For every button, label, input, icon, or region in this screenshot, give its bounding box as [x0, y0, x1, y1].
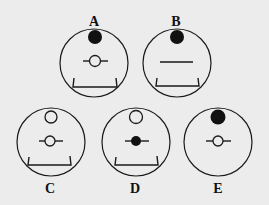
hollow-ball [90, 56, 101, 67]
panel-label-b: B [171, 14, 180, 29]
bracket-base [156, 78, 199, 86]
panel-d: D [102, 108, 170, 196]
hollow-ball [213, 136, 223, 146]
panel-label-a: A [89, 14, 100, 29]
panel-c: C [17, 108, 85, 196]
bracket-base [73, 78, 117, 87]
panel-a: A [60, 14, 128, 97]
hollow-top-dot [45, 111, 57, 123]
filled-ball [131, 136, 141, 146]
filled-top-dot [88, 30, 102, 44]
bracket-base [28, 156, 71, 165]
panel-label-c: C [45, 181, 55, 196]
panel-b: B [143, 14, 211, 97]
hollow-top-dot [130, 111, 143, 124]
bracket-base [115, 156, 158, 165]
panel-label-e: E [213, 181, 222, 196]
panel-label-d: D [130, 181, 140, 196]
diagram-svg: A B C [0, 0, 269, 205]
filled-top-dot [211, 110, 226, 125]
filled-top-dot [170, 30, 184, 44]
panel-e: E [184, 108, 252, 196]
hollow-ball [45, 136, 55, 146]
diagram-stage: A B C [0, 0, 269, 205]
